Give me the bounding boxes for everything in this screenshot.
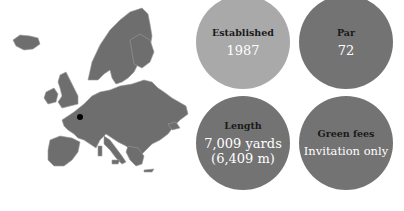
europe-map-icon — [0, 0, 200, 211]
established-value: 1987 — [226, 43, 259, 58]
length-stat: Length 7,009 yards (6,409 m) — [196, 96, 290, 190]
green-fees-label: Green fees — [318, 128, 375, 139]
par-value: 72 — [338, 43, 355, 58]
length-label: Length — [224, 120, 262, 131]
length-value-yards: 7,009 yards — [204, 136, 282, 151]
green-fees-stat: Green fees Invitation only — [299, 96, 393, 190]
par-label: Par — [337, 27, 355, 38]
par-stat: Par 72 — [299, 0, 393, 89]
europe-map — [0, 0, 200, 211]
location-marker — [77, 114, 83, 120]
established-label: Established — [212, 27, 274, 38]
green-fees-value: Invitation only — [304, 144, 388, 159]
established-stat: Established 1987 — [196, 0, 290, 89]
length-value-meters: (6,409 m) — [211, 151, 275, 166]
